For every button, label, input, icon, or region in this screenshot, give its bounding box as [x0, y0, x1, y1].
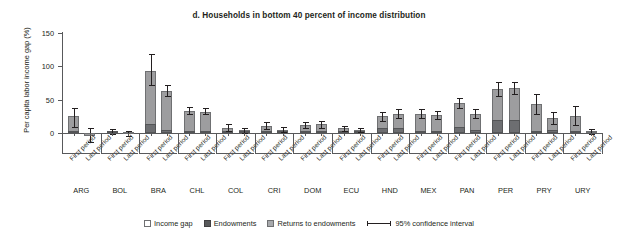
error-bar-cap-upper [419, 109, 425, 110]
error-bar [536, 94, 537, 114]
x-tick [553, 133, 554, 136]
error-bar-cap-upper [88, 128, 94, 129]
x-tick [475, 133, 476, 136]
error-bar [167, 85, 168, 96]
legend-item-returns: Returns to endowments [267, 219, 355, 228]
country-label-dom: DOM [293, 186, 332, 195]
error-bar [437, 111, 438, 119]
error-bar-cap-upper [303, 122, 309, 123]
error-bar-cap-lower [303, 128, 309, 129]
y-tick-label-50: 50 [30, 96, 54, 105]
country-label-mex: MEX [409, 186, 448, 195]
country-label-chl: CHL [178, 186, 217, 195]
error-bar [74, 108, 75, 127]
legend-label-endowments: Endowments [214, 219, 257, 228]
group-baseline [294, 153, 331, 154]
group-baseline [333, 153, 370, 154]
error-bar [575, 106, 576, 125]
error-bar-cap-upper [226, 124, 232, 125]
error-bar-cap-lower [72, 127, 78, 128]
bar-segment-endowments [492, 120, 503, 133]
country-label-pan: PAN [448, 186, 487, 195]
error-bar-cap-upper [264, 122, 270, 123]
country-label-cri: CRI [255, 186, 294, 195]
group-separator [486, 133, 487, 154]
error-bar-cap-lower [149, 85, 155, 86]
error-bar-cap-lower [165, 96, 171, 97]
x-tick [112, 133, 113, 136]
x-tick [90, 133, 91, 136]
error-bar-cap-upper [281, 127, 287, 128]
x-tick [244, 133, 245, 136]
error-bar [553, 112, 554, 124]
group-separator [525, 133, 526, 154]
chart-title: d. Households in bottom 40 percent of in… [0, 11, 618, 20]
error-bar-cap-lower [203, 114, 209, 115]
x-tick [283, 133, 284, 136]
group-baseline [410, 153, 447, 154]
group-baseline [179, 153, 216, 154]
country-label-ury: URY [563, 186, 602, 195]
legend-item-income-gap: Income gap [144, 219, 193, 228]
group-separator [602, 133, 603, 154]
error-bar-cap-upper [512, 82, 518, 83]
error-bar-cap-upper [534, 94, 540, 95]
group-baseline [372, 153, 409, 154]
error-bar [421, 109, 422, 118]
error-bar-cap-lower [264, 129, 270, 130]
error-bar-cap-lower [419, 118, 425, 119]
country-label-col: COL [216, 186, 255, 195]
legend-item-confidence-interval: 95% confidence interval [366, 219, 473, 228]
error-bar-cap-upper [165, 85, 171, 86]
country-label-pry: PRY [525, 186, 564, 195]
error-bar-cap-upper [573, 106, 579, 107]
x-tick [591, 133, 592, 136]
group-baseline [63, 153, 100, 154]
x-tick [151, 133, 152, 136]
error-bar-cap-upper [149, 54, 155, 55]
group-baseline [256, 153, 293, 154]
error-bar-cap-lower [496, 96, 502, 97]
group-baseline [526, 153, 563, 154]
x-tick [459, 133, 460, 136]
error-bar [514, 82, 515, 94]
error-bar [382, 112, 383, 121]
group-separator [332, 133, 333, 154]
error-bar-cap-upper [473, 109, 479, 110]
error-bar-cap-lower [187, 114, 193, 115]
x-tick [398, 133, 399, 136]
x-tick [575, 133, 576, 136]
error-bar-cap-lower [573, 125, 579, 126]
group-separator [448, 133, 449, 154]
error-bar-cap-upper [551, 112, 557, 113]
group-baseline [140, 153, 177, 154]
y-tick-label-150: 150 [30, 29, 54, 38]
legend-label-confidence-interval: 95% confidence interval [395, 219, 473, 228]
error-bar-cap-upper [342, 126, 348, 127]
error-bar-cap-lower [380, 121, 386, 122]
x-tick [536, 133, 537, 136]
country-label-per: PER [486, 186, 525, 195]
group-separator [178, 133, 179, 154]
country-label-bra: BRA [139, 186, 178, 195]
legend-label-income-gap: Income gap [154, 219, 193, 228]
group-separator [101, 133, 102, 154]
group-baseline [102, 153, 139, 154]
error-bar-cap-upper [358, 128, 364, 129]
x-tick [360, 133, 361, 136]
bar-segment-endowments [145, 124, 156, 133]
error-bar-cap-upper [589, 129, 595, 130]
x-tick [167, 133, 168, 136]
x-tick [205, 133, 206, 136]
error-bar [498, 82, 499, 97]
error-bar-cap-upper [435, 111, 441, 112]
group-baseline [487, 153, 524, 154]
x-tick [189, 133, 190, 136]
legend-item-endowments: Endowments [204, 219, 257, 228]
x-tick [266, 133, 267, 136]
error-bar-cap-upper [319, 121, 325, 122]
group-separator [62, 133, 63, 154]
error-bar [475, 109, 476, 118]
error-bar-cap-upper [203, 108, 209, 109]
group-separator [216, 133, 217, 154]
